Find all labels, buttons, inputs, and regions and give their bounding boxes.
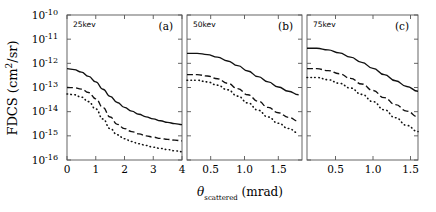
- curve-solid: [187, 53, 299, 94]
- curve-dashed: [187, 75, 299, 122]
- panel-frame: [307, 15, 418, 160]
- panel-a: 0123425kev(a): [64, 15, 186, 175]
- y-tick-label: 10-12: [32, 55, 58, 69]
- panel-b: 0.51.01.550kev(b): [187, 15, 302, 175]
- curve-dashed: [67, 88, 182, 141]
- fdcs-multipanel-chart: FDCS (cm2/sr)10-1610-1510-1410-1310-1210…: [0, 0, 436, 212]
- panel-energy-label: 25kev: [73, 20, 96, 29]
- panel-c: 0.51.01.575kev(c): [307, 15, 419, 175]
- x-tick-label: 3: [150, 163, 157, 175]
- y-tick-label: 10-14: [32, 104, 58, 118]
- curve-solid: [67, 69, 182, 125]
- x-tick-label: 1: [92, 163, 99, 175]
- curve-dashed: [307, 69, 418, 117]
- x-tick-label: 1.5: [270, 163, 287, 175]
- x-tick-label: 0.5: [202, 163, 219, 175]
- y-axis-label: FDCS (cm2/sr): [4, 40, 20, 135]
- panel-id-label: (a): [159, 20, 173, 32]
- y-tick-label: 10-10: [32, 7, 58, 21]
- figure-container: FDCS (cm2/sr)10-1610-1510-1410-1310-1210…: [0, 0, 436, 212]
- x-axis-label: θscattered (mrad): [197, 185, 283, 202]
- panel-frame: [187, 15, 302, 160]
- x-tick-label: 1.5: [402, 163, 419, 175]
- x-tick-label: 0: [64, 163, 71, 175]
- x-tick-label: 0.5: [327, 163, 344, 175]
- y-tick-label: 10-11: [32, 31, 58, 45]
- x-tick-label: 4: [179, 163, 186, 175]
- curve-solid: [307, 48, 418, 91]
- y-tick-label: 10-13: [32, 80, 58, 94]
- y-tick-label: 10-16: [32, 152, 58, 166]
- x-tick-label: 2: [121, 163, 128, 175]
- x-tick-label: 1.0: [365, 163, 382, 175]
- panel-energy-label: 75kev: [313, 20, 336, 29]
- y-tick-label: 10-15: [32, 128, 58, 142]
- svg-text:FDCS (cm2/sr): FDCS (cm2/sr): [4, 40, 20, 135]
- panel-id-label: (c): [395, 20, 409, 32]
- panel-id-label: (b): [278, 20, 293, 32]
- curve-dotted: [67, 94, 182, 152]
- x-tick-label: 1.0: [236, 163, 253, 175]
- curve-dotted: [307, 77, 418, 131]
- panel-energy-label: 50kev: [193, 20, 216, 29]
